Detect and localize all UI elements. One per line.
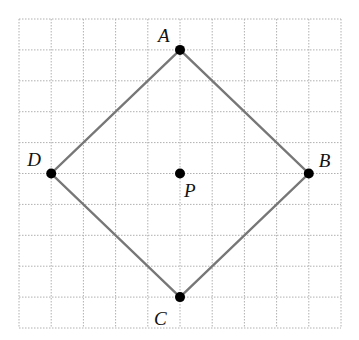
point-c-dot: [175, 292, 185, 302]
point-d-dot: [46, 169, 56, 179]
point-b-label: B: [319, 150, 331, 171]
square-on-grid-diagram: ABCDP: [0, 0, 359, 340]
point-p-label: P: [183, 180, 196, 201]
point-b-dot: [304, 169, 314, 179]
point-p-dot: [175, 169, 185, 179]
point-c-label: C: [154, 308, 167, 329]
point-a-label: A: [156, 25, 170, 46]
point-d-label: D: [26, 149, 41, 170]
labeled-points: ABCDP: [26, 25, 331, 329]
point-a-dot: [175, 45, 185, 55]
